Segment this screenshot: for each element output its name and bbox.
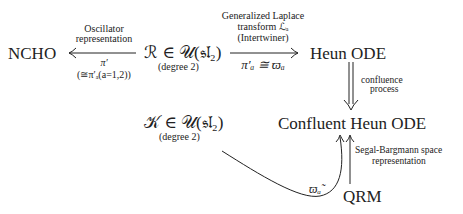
curved-arrow-k-to-confluent (222, 135, 344, 196)
label-representation-2: representation (372, 157, 426, 167)
label-pi-prime-equiv: (≅π′ₐ(a=1,2)) (77, 70, 131, 80)
double-arrow-heun-to-confluent (344, 62, 358, 110)
node-k-degree: (degree 2) (159, 132, 200, 142)
node-confluent-heun-ode: Confluent Heun ODE (278, 115, 426, 132)
diagram-arrows (0, 0, 463, 214)
label-pi-prime: π′ (100, 58, 107, 68)
node-qrm: QRM (343, 188, 382, 205)
label-process: process (370, 85, 399, 95)
arrow-qrm-to-confluent (346, 135, 354, 184)
node-heun-ode: Heun ODE (310, 45, 386, 62)
node-r-element: ℛ ∈ 𝒰(𝔰𝔩₂) (144, 44, 221, 61)
label-intertwiner: (Intertwiner) (237, 33, 288, 43)
label-representation: representation (76, 34, 133, 44)
node-ncho: NCHO (8, 45, 56, 62)
label-segal-bargmann: Segal-Bargmann space (355, 146, 442, 156)
label-transform: transform ℒₐ (237, 22, 288, 32)
node-k-element: 𝒦 ∈ 𝒰(𝔰𝔩₂) (144, 114, 223, 131)
label-pi-a-cong-varpi-a: π′ₐ ≅ ϖₐ (241, 58, 285, 71)
node-r-degree: (degree 2) (158, 62, 199, 72)
label-generalized-laplace: Generalized Laplace (222, 11, 304, 21)
label-varpi-a-tilde: ϖₐ̃ (309, 183, 321, 195)
